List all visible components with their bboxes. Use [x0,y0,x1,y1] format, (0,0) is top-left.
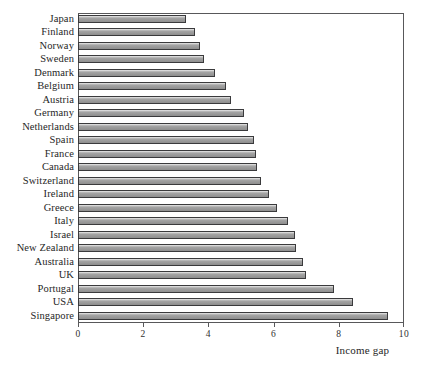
category-label-canada: Canada [0,161,74,173]
bar-canada [78,163,257,171]
category-label-germany: Germany [0,107,74,119]
category-label-greece: Greece [0,202,74,214]
category-label-singapore: Singapore [0,310,74,322]
bar-germany [78,109,244,117]
bar-austria [78,96,231,104]
x-tick-label-4: 4 [206,329,211,339]
category-label-italy: Italy [0,215,74,227]
category-label-denmark: Denmark [0,67,74,79]
x-axis-title: Income gap [0,344,421,356]
bar-ireland [78,190,269,198]
bar-singapore [78,312,388,320]
bar-netherlands [78,123,248,131]
category-label-uk: UK [0,269,74,281]
x-tick [143,323,144,327]
x-tick-label-2: 2 [141,329,146,339]
bar-japan [78,15,186,23]
income-gap-bar-chart: JapanFinlandNorwaySwedenDenmarkBelgiumAu… [0,0,421,369]
category-label-australia: Australia [0,256,74,268]
category-label-israel: Israel [0,229,74,241]
category-label-norway: Norway [0,40,74,52]
x-tick [78,323,79,327]
bar-uk [78,271,306,279]
x-tick-label-8: 8 [336,329,341,339]
category-label-austria: Austria [0,94,74,106]
category-label-usa: USA [0,296,74,308]
bar-sweden [78,55,204,63]
bar-denmark [78,69,215,77]
bar-switzerland [78,177,261,185]
category-label-japan: Japan [0,13,74,25]
category-label-switzerland: Switzerland [0,175,74,187]
category-label-belgium: Belgium [0,80,74,92]
x-axis-title-text: Income gap [336,344,390,356]
bar-italy [78,217,288,225]
category-label-finland: Finland [0,26,74,38]
x-tick-label-0: 0 [75,329,80,339]
category-label-france: France [0,148,74,160]
bar-portugal [78,285,334,293]
category-label-netherlands: Netherlands [0,121,74,133]
x-tick-label-10: 10 [399,329,409,339]
bar-finland [78,28,195,36]
x-tick [274,323,275,327]
bar-greece [78,204,277,212]
category-label-sweden: Sweden [0,53,74,65]
bar-new-zealand [78,244,296,252]
bar-australia [78,258,303,266]
category-label-portugal: Portugal [0,283,74,295]
bar-usa [78,298,353,306]
bar-france [78,150,256,158]
category-label-ireland: Ireland [0,188,74,200]
category-axis-labels: JapanFinlandNorwaySwedenDenmarkBelgiumAu… [0,13,74,323]
bars-layer [78,13,404,323]
bar-israel [78,231,295,239]
x-tick [208,323,209,327]
category-label-new-zealand: New Zealand [0,242,74,254]
bar-norway [78,42,200,50]
category-label-spain: Spain [0,134,74,146]
x-tick [339,323,340,327]
x-tick [403,323,404,327]
bar-belgium [78,82,226,90]
bar-spain [78,136,254,144]
x-tick-label-6: 6 [271,329,276,339]
